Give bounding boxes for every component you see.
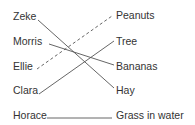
right-label-grass-in-water: Grass in water: [116, 109, 184, 121]
right-label-hay: Hay: [116, 84, 135, 96]
connector-clara-tree: [39, 41, 114, 94]
connector-morris-bananas: [49, 44, 114, 65]
right-label-peanuts: Peanuts: [116, 9, 155, 21]
right-label-tree: Tree: [116, 35, 137, 47]
right-label-bananas: Bananas: [116, 60, 157, 72]
left-label-ellie: Ellie: [13, 60, 33, 72]
left-label-zeke: Zeke: [13, 10, 36, 22]
left-label-morris: Morris: [13, 35, 42, 47]
connector-zeke-hay: [38, 20, 114, 88]
left-label-clara: Clara: [13, 84, 38, 96]
left-label-horace: Horace: [13, 109, 47, 121]
